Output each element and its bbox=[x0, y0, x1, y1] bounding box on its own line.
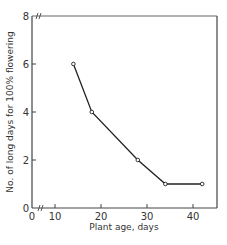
data-point-marker bbox=[136, 158, 140, 162]
y-tick-label: 2 bbox=[23, 155, 29, 166]
x-tick-label: 40 bbox=[187, 211, 200, 222]
y-tick-label: 8 bbox=[23, 11, 29, 22]
y-axis-label: No. of long days for 100% flowering bbox=[5, 31, 15, 192]
data-point-marker bbox=[90, 110, 94, 114]
data-point-marker bbox=[72, 62, 76, 66]
x-axis-label: Plant age, days bbox=[89, 222, 159, 232]
y-tick-label: 6 bbox=[23, 59, 29, 70]
x-tick-label: 30 bbox=[141, 211, 154, 222]
data-markers bbox=[72, 62, 204, 186]
x-tick-label: 10 bbox=[49, 211, 62, 222]
x-ticks: 010203040 bbox=[29, 204, 200, 222]
data-point-marker bbox=[164, 182, 168, 186]
data-line bbox=[73, 64, 202, 184]
x-tick-label: 0 bbox=[29, 211, 35, 222]
data-point-marker bbox=[200, 182, 204, 186]
y-ticks: 02468 bbox=[23, 11, 36, 214]
y-tick-label: 4 bbox=[23, 107, 29, 118]
x-tick-label: 20 bbox=[95, 211, 108, 222]
line-chart: 02468 010203040 Plant age, days No. of l… bbox=[0, 0, 227, 245]
